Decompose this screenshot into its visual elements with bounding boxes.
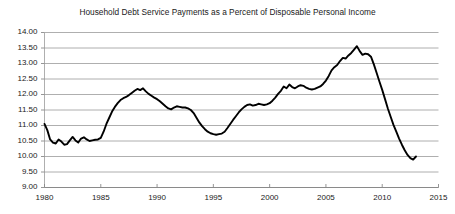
y-axis-tick-label: 13.00 [0,58,38,67]
x-axis-tick-label: 1995 [193,193,233,202]
x-axis-tick-label: 1985 [81,193,121,202]
y-axis-tick-label: 11.50 [0,105,38,114]
y-axis-tick-label: 13.50 [0,43,38,52]
chart-container: Household Debt Service Payments as a Per… [0,0,455,214]
y-axis-tick-label: 10.50 [0,136,38,145]
y-axis-tick-label: 14.00 [0,27,38,36]
x-axis-tick-label: 2000 [250,193,290,202]
x-axis-tick-label: 2005 [306,193,346,202]
y-axis-tick-label: 11.00 [0,120,38,129]
y-axis-tick-label: 9.00 [0,182,38,191]
x-axis-tick-label: 2010 [362,193,402,202]
x-axis-tick-label: 1980 [25,193,65,202]
line-chart-plot [0,0,455,214]
y-axis-tick-label: 10.00 [0,151,38,160]
y-axis-tick-label: 9.50 [0,167,38,176]
y-axis-tick-label: 12.00 [0,89,38,98]
x-axis-tick-label: 1990 [137,193,177,202]
y-axis-tick-label: 12.50 [0,74,38,83]
x-axis-tick-label: 2015 [419,193,455,202]
